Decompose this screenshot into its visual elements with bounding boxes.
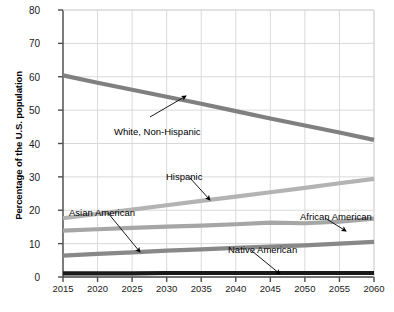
series-label-native-american: Native American bbox=[228, 244, 297, 255]
x-tick-label: 2015 bbox=[52, 283, 73, 294]
series-label-white-non-hispanic: White, Non-Hispanic bbox=[114, 126, 201, 137]
x-tick-label: 2035 bbox=[191, 283, 212, 294]
axes bbox=[58, 10, 374, 282]
series-line-white-non-hispanic bbox=[63, 75, 374, 139]
x-tick-label: 2040 bbox=[225, 283, 246, 294]
x-tick-label: 2025 bbox=[122, 283, 143, 294]
x-tick-label: 2020 bbox=[87, 283, 108, 294]
x-tick-label: 2055 bbox=[329, 283, 350, 294]
series-label-hispanic: Hispanic bbox=[166, 171, 202, 182]
annotation-arrow bbox=[108, 213, 140, 252]
grid-lines bbox=[63, 10, 374, 277]
series-label-asian-american: Asian American bbox=[69, 207, 135, 218]
population-projection-chart: Percentage of the U.S. population 010203… bbox=[0, 0, 394, 312]
x-tick-label: 2030 bbox=[156, 283, 177, 294]
x-tick-label: 2050 bbox=[294, 283, 315, 294]
series-label-african-american: African American bbox=[300, 211, 372, 222]
plot-area bbox=[0, 0, 394, 312]
x-tick-label: 2060 bbox=[363, 283, 384, 294]
x-tick-label: 2045 bbox=[260, 283, 281, 294]
